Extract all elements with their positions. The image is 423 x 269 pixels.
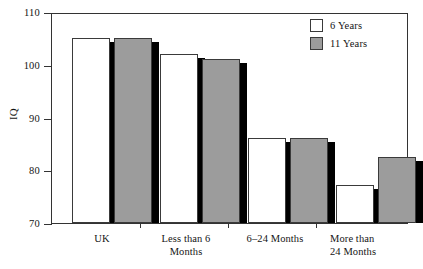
y-tick-label-90: 90 (12, 113, 40, 124)
legend-label-6-years: 6 Years (330, 20, 362, 31)
legend-swatch-gray-icon (310, 37, 323, 50)
bar-6-24-months-11-years (290, 138, 328, 223)
bar-6-24-months-6-years (248, 138, 286, 223)
bar-shadow-6-24-months-11-years (328, 142, 335, 223)
y-tick-mark-70 (44, 224, 52, 225)
bar-uk-11-years (114, 38, 152, 223)
bar-less-than-6-months-11-years (202, 59, 240, 223)
x-group-label-uk: UK (72, 233, 132, 246)
y-tick-label-110: 110 (12, 7, 40, 18)
bar-uk-6-years (72, 38, 110, 223)
legend-item-11-years: 11 Years (310, 37, 367, 50)
x-group-label-6-24-months: 6–24 Months (236, 233, 314, 246)
y-tick-label-100: 100 (12, 60, 40, 71)
x-tick-mark-2 (228, 224, 229, 228)
legend-item-6-years: 6 Years (310, 19, 367, 32)
bar-more-than-24-months-6-years (336, 185, 374, 223)
legend-swatch-white-icon (310, 19, 323, 32)
legend-label-11-years: 11 Years (330, 38, 367, 49)
x-tick-mark-3 (316, 224, 317, 228)
y-tick-label-70: 70 (12, 218, 40, 229)
x-group-label-less-than-6-months: Less than 6 Months (150, 233, 222, 258)
x-group-label-more-than-24-months: More than 24 Months (330, 233, 408, 258)
legend: 6 Years 11 Years (310, 19, 367, 50)
bar-shadow-less-than-6-months-11-years (240, 63, 247, 223)
bar-more-than-24-months-11-years (378, 157, 416, 223)
bar-shadow-more-than-24-months-11-years (416, 161, 423, 223)
bar-shadow-uk-11-years (152, 42, 159, 223)
plot-area: 6 Years 11 Years (51, 13, 408, 224)
y-tick-label-80: 80 (12, 165, 40, 176)
bar-less-than-6-months-6-years (160, 54, 198, 223)
x-tick-mark-1 (140, 224, 141, 228)
